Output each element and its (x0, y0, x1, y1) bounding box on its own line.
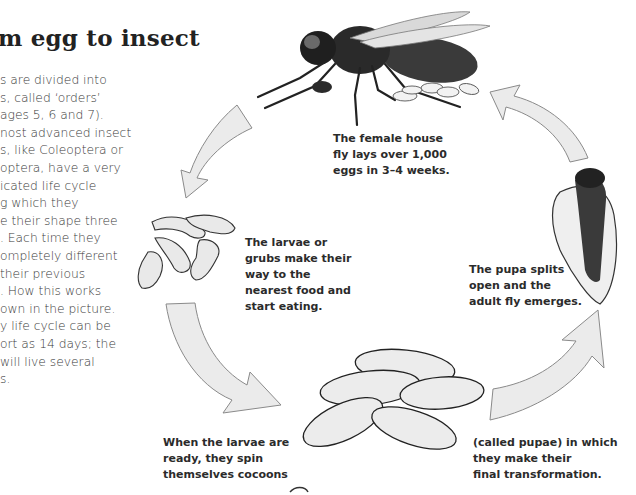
arrow-pupae-to-adult-icon (490, 310, 604, 420)
intro-line: will live several (0, 354, 130, 372)
intro-line: s are divided into (0, 72, 130, 90)
intro-line: . Each time they (0, 230, 130, 248)
caption-pupa-emerge: The pupa splits open and the adult fly e… (469, 262, 582, 310)
caption-larvae: The larvae or grubs make their way to th… (245, 235, 351, 315)
intro-paragraph: s are divided into s, called ‘orders’ ag… (0, 72, 130, 389)
intro-line: g which they (0, 195, 130, 213)
arrow-fly-to-larvae-icon (181, 105, 252, 198)
page-edge-mark (290, 488, 308, 493)
intro-line: ompletely different (0, 248, 130, 266)
caption-cocoon-left: When the larvae are ready, they spin the… (163, 435, 289, 483)
arrow-larvae-to-pupae-icon (166, 303, 281, 413)
intro-line: icated life cycle (0, 178, 130, 196)
pupae-cocoons-illustration (296, 345, 485, 458)
intro-line: ages 5, 6 and 7). (0, 107, 130, 125)
caption-adult-fly: The female house fly lays over 1,000 egg… (333, 131, 450, 179)
intro-line: optera, have a very (0, 160, 130, 178)
larvae-illustration (138, 215, 235, 288)
house-fly-illustration (258, 12, 490, 125)
intro-line: their previous (0, 266, 130, 284)
intro-line: . How this works (0, 283, 130, 301)
intro-line: s, called ‘orders’ (0, 90, 130, 108)
intro-line: own in the picture. (0, 301, 130, 319)
intro-line: y life cycle can be (0, 318, 130, 336)
intro-line: s, like Coleoptera or (0, 142, 130, 160)
page-title: m egg to insect (0, 24, 200, 51)
intro-line: ort as 14 days; the (0, 336, 130, 354)
arrow-emerge-to-adult-icon (490, 85, 588, 162)
intro-line: s. (0, 371, 130, 389)
intro-line: e their shape three (0, 213, 130, 231)
intro-line: nost advanced insect (0, 125, 130, 143)
caption-cocoon-right: (called pupae) in which they make their … (473, 435, 618, 483)
